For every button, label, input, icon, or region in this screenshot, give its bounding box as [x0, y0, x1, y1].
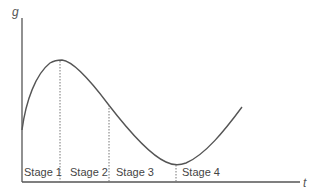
stage-3-label: Stage 3: [116, 166, 154, 178]
x-axis-label: t: [303, 176, 307, 190]
stage-1-label: Stage 1: [24, 166, 62, 178]
stage-4-label: Stage 4: [182, 166, 220, 178]
g-curve: [22, 60, 242, 165]
stage-diagram: g t Stage 1 Stage 2 Stage 3 Stage 4: [0, 0, 309, 194]
y-axis-label: g: [12, 5, 19, 19]
stage-2-label: Stage 2: [70, 166, 108, 178]
